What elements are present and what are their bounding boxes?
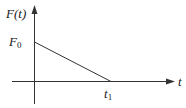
x-axis-label: t bbox=[178, 75, 182, 88]
x-intercept-sub: 1 bbox=[108, 92, 113, 102]
y-intercept-main: F bbox=[9, 34, 17, 49]
y-axis-arrowhead-icon bbox=[32, 5, 38, 14]
x-axis-arrowhead-icon bbox=[166, 79, 175, 85]
y-intercept-sub: 0 bbox=[17, 40, 22, 50]
x-intercept-label: t1 bbox=[104, 87, 112, 102]
y-intercept-label: F0 bbox=[9, 35, 21, 50]
diagram-canvas bbox=[0, 0, 186, 108]
force-line bbox=[35, 42, 112, 82]
force-time-diagram: F(t) t F0 t1 bbox=[0, 0, 186, 108]
y-axis-label: F(t) bbox=[6, 7, 26, 20]
